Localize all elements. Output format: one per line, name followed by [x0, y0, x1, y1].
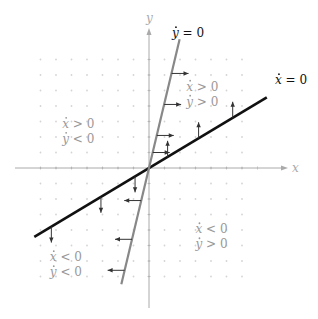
grid-dot	[55, 74, 57, 76]
grid-dot	[164, 245, 166, 247]
grid-dot	[71, 198, 73, 200]
grid-dot	[179, 121, 181, 123]
grid-dot	[241, 214, 243, 216]
grid-dot	[86, 105, 88, 107]
grid-dot	[195, 152, 197, 154]
grid-dot	[71, 105, 73, 107]
grid-dot	[133, 198, 135, 200]
arrowhead-icon	[184, 71, 189, 75]
grid-dot	[195, 136, 197, 138]
region-label-upper-left-line1: x > 0	[62, 117, 94, 131]
grid-dot	[86, 90, 88, 92]
grid-dot	[164, 59, 166, 61]
arrowhead-icon	[99, 208, 103, 213]
grid-dot	[241, 245, 243, 247]
relation-text: > 0	[202, 237, 227, 251]
grid-dot	[55, 183, 57, 185]
grid-dot	[210, 121, 212, 123]
grid-dot	[210, 183, 212, 185]
grid-dot	[102, 121, 104, 123]
grid-dot	[226, 152, 228, 154]
grid-dot	[86, 229, 88, 231]
x-nullcline-label: x = 0	[275, 73, 307, 87]
grid-dot	[210, 198, 212, 200]
time-derivative-dot-icon	[65, 132, 67, 134]
grid-dot	[40, 136, 42, 138]
grid-dot	[55, 214, 57, 216]
grid-dot	[133, 90, 135, 92]
grid-dot	[71, 59, 73, 61]
grid-dot	[40, 105, 42, 107]
relation-text: > 0	[193, 95, 218, 109]
grid-dot	[102, 74, 104, 76]
grid-dot	[71, 74, 73, 76]
grid-dot	[133, 245, 135, 247]
grid-dot	[55, 152, 57, 154]
time-derivative-dot-icon	[199, 222, 201, 224]
grid-dot	[133, 136, 135, 138]
arrowhead-icon	[231, 102, 235, 107]
grid-dot	[133, 214, 135, 216]
grid-dot	[117, 59, 119, 61]
grid-dot	[164, 90, 166, 92]
grid-dot	[241, 229, 243, 231]
relation-text: < 0	[57, 250, 82, 264]
arrowhead-icon	[133, 187, 137, 192]
grid-dot	[40, 152, 42, 154]
grid-dot	[40, 214, 42, 216]
grid-dot	[241, 260, 243, 262]
grid-dot	[40, 229, 42, 231]
grid-dot	[102, 260, 104, 262]
arrowhead-icon	[124, 198, 129, 202]
region-label-lower-left-line2: y < 0	[49, 265, 82, 279]
phase-plane-diagram: x y y = 0x = 0x > 0y > 0x > 0y < 0x < 0y…	[0, 0, 318, 319]
grid-dot	[133, 59, 135, 61]
grid-dot	[226, 59, 228, 61]
grid-dot	[55, 136, 57, 138]
grid-dot	[102, 59, 104, 61]
grid-dot	[40, 90, 42, 92]
y-axis-arrowhead-icon	[147, 28, 152, 35]
grid-dot	[40, 276, 42, 278]
grid-dot	[86, 260, 88, 262]
grid-dot	[179, 260, 181, 262]
y-nullcline-line	[121, 39, 179, 284]
grid-dot	[179, 74, 181, 76]
grid-dot	[55, 90, 57, 92]
grid-dot	[164, 136, 166, 138]
grid-dot	[133, 276, 135, 278]
grid-dot	[86, 152, 88, 154]
grid-dot	[117, 152, 119, 154]
grid-dot	[164, 74, 166, 76]
grid-dot	[164, 183, 166, 185]
relation-text: > 0	[69, 117, 94, 131]
grid-dot	[117, 260, 119, 262]
grid-dot	[179, 90, 181, 92]
grid-dot	[195, 74, 197, 76]
grid-dot	[226, 183, 228, 185]
grid-dot	[210, 152, 212, 154]
grid-dot	[241, 276, 243, 278]
grid-dot	[133, 121, 135, 123]
arrowhead-icon	[108, 268, 113, 272]
relation-text: = 0	[179, 26, 204, 40]
grid-dot	[86, 198, 88, 200]
time-derivative-dot-icon	[189, 80, 191, 82]
grid-dot	[179, 214, 181, 216]
grid-dot	[226, 214, 228, 216]
region-label-upper-left-line2: y < 0	[61, 132, 94, 146]
grid-dot	[226, 105, 228, 107]
grid-dot	[117, 214, 119, 216]
arrowhead-icon	[165, 141, 169, 146]
grid-dot	[195, 183, 197, 185]
grid-dot	[55, 59, 57, 61]
horizontal-flow-arrow	[115, 237, 132, 241]
grid-dot	[195, 260, 197, 262]
grid-dot	[179, 183, 181, 185]
grid-dot	[241, 152, 243, 154]
time-derivative-dot-icon	[53, 250, 55, 252]
grid-dot	[164, 260, 166, 262]
time-derivative-dot-icon	[278, 73, 280, 75]
grid-dot	[55, 121, 57, 123]
grid-dot	[226, 260, 228, 262]
